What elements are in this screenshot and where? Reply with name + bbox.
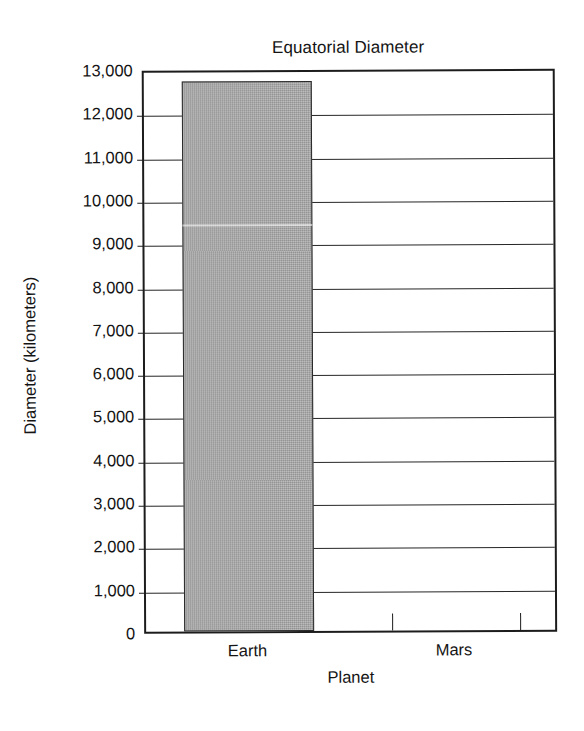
- y-axis-tick-label: 0: [45, 624, 135, 643]
- x-axis-tick-mark: [392, 614, 393, 631]
- y-axis-tick-label: 7,000: [44, 321, 134, 340]
- y-axis-tick-label: 13,000: [43, 61, 133, 80]
- y-axis-tick-mark: [138, 332, 145, 333]
- x-axis-category-label: Mars: [436, 640, 473, 659]
- y-axis-tick-mark: [139, 549, 146, 550]
- y-axis-tick-label: 9,000: [43, 234, 133, 253]
- y-axis-tick-mark: [138, 289, 145, 290]
- chart-figure: Equatorial Diameter Diameter (kilometers…: [0, 0, 584, 731]
- y-axis-tick-label: 2,000: [45, 538, 135, 557]
- x-axis-tick-mark: [520, 613, 521, 630]
- x-axis-category-labels: EarthMars: [0, 0, 582, 1]
- y-axis-tick-label: 12,000: [43, 104, 133, 123]
- y-axis-tick-mark: [139, 592, 146, 593]
- y-axis-tick-label: 11,000: [43, 148, 133, 167]
- y-axis-tick-mark: [139, 506, 146, 507]
- x-axis-category-label: Earth: [228, 641, 268, 660]
- plot-area: [142, 69, 557, 634]
- y-axis-tick-label: 1,000: [45, 581, 135, 600]
- chart-title: Equatorial Diameter: [142, 37, 555, 59]
- y-axis-tick-label: 5,000: [44, 408, 134, 427]
- y-axis-tick-label: 4,000: [44, 451, 134, 470]
- y-axis-tick-mark: [137, 246, 144, 247]
- y-axis-tick-label: 8,000: [44, 278, 134, 297]
- y-axis-tick-label: 3,000: [45, 494, 135, 513]
- y-axis-tick-mark: [137, 203, 144, 204]
- y-axis-tick-mark: [138, 419, 145, 420]
- bar-earth: [182, 81, 314, 632]
- y-axis-title: Diameter (kilometers): [20, 206, 40, 506]
- y-axis-tick-labels: 13,00012,00011,00010,0009,0008,0007,0006…: [0, 0, 582, 1]
- y-axis-tick-mark: [138, 376, 145, 377]
- y-axis-tick-label: 10,000: [43, 191, 133, 210]
- y-axis-tick-mark: [138, 462, 145, 463]
- y-axis-tick-label: 6,000: [44, 364, 134, 383]
- y-axis-tick-mark: [137, 116, 144, 117]
- x-axis-title: Planet: [144, 667, 557, 688]
- y-axis-tick-mark: [137, 159, 144, 160]
